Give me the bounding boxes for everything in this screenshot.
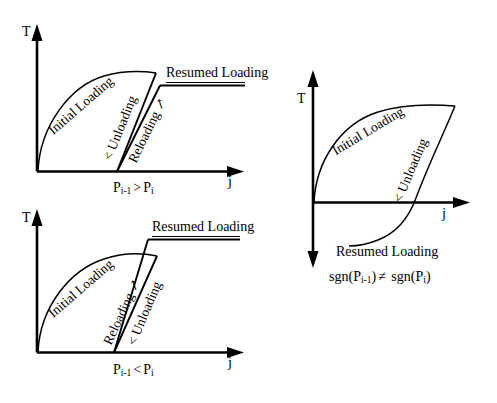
panel1-t-axis-label: T xyxy=(22,25,31,39)
panel3-caption-lhs-sub: i-1 xyxy=(361,275,372,285)
panel2-caption-rhs: P xyxy=(143,362,151,377)
panel1-j-axis-label: j xyxy=(228,175,232,189)
panel3-caption-operator: ≠ xyxy=(376,269,388,284)
panel3-t-axis-label: T xyxy=(297,92,306,106)
panel3-caption-fn-open: sgn( xyxy=(329,269,353,284)
panel3-caption-lhs: P xyxy=(353,269,361,284)
panel3-caption: sgn(Pi-1)≠ sgn(Pi) xyxy=(329,270,431,286)
figure-root: T j Initial Loading < Unloading Reloadin… xyxy=(0,0,497,403)
panel2-t-axis-arrowhead xyxy=(32,209,43,226)
panel3-t-axis-arrowhead-up xyxy=(308,70,319,87)
panel1-caption-operator: > xyxy=(131,180,143,195)
panel1-caption: Pi-1>Pi xyxy=(113,181,154,197)
panel1-t-axis-arrowhead xyxy=(32,24,43,41)
panel3-t-axis-arrowhead-down xyxy=(308,251,319,268)
panel3-resumed-loading-label: Resumed Loading xyxy=(336,245,438,259)
panel1-caption-lhs: P xyxy=(113,180,121,195)
panel2-resumed-loading-label: Resumed Loading xyxy=(152,220,254,234)
panel3-caption-fn-open-2: sgn( xyxy=(391,269,415,284)
panel1-caption-rhs: P xyxy=(143,180,151,195)
panel1-caption-rhs-sub: i xyxy=(151,186,154,196)
diagram-canvas xyxy=(0,0,497,403)
panel2-caption-rhs-sub: i xyxy=(151,368,154,378)
panel-right-graphics xyxy=(308,70,471,268)
panel2-t-axis-label: T xyxy=(22,211,31,225)
panel3-j-axis-arrowhead xyxy=(453,197,470,208)
panel2-caption-lhs: P xyxy=(113,362,121,377)
panel2-caption-operator: < xyxy=(131,362,143,377)
panel2-caption: Pi-1<Pi xyxy=(113,363,154,379)
panel2-j-axis-label: j xyxy=(228,356,232,370)
panel3-caption-rhs-close: ) xyxy=(426,269,431,284)
panel2-caption-lhs-sub: i-1 xyxy=(121,368,132,378)
panel1-resumed-loading-label: Resumed Loading xyxy=(166,66,268,80)
panel1-caption-lhs-sub: i-1 xyxy=(121,186,132,196)
panel3-j-axis-label: j xyxy=(442,207,446,221)
